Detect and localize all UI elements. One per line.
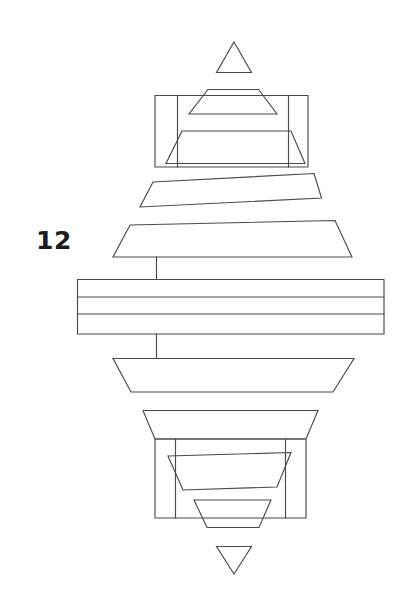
down-triangle-icon: [217, 547, 252, 575]
upper-inner-large-trapezoid: [166, 131, 305, 164]
up-triangle-icon: [217, 42, 252, 73]
bottom-inner-small-trapezoid: [194, 500, 271, 528]
technical-line-drawing: [0, 0, 409, 602]
bottom-assembly-group: [143, 411, 318, 528]
upper-assembly-group: [155, 90, 308, 168]
bottom-cap-trapezoid: [143, 411, 318, 440]
figure-canvas: 12: [0, 0, 409, 602]
wide-upper-band: [113, 221, 352, 258]
central-layer-stack: [78, 280, 385, 335]
reference-numeral-label: 12: [36, 228, 72, 253]
lower-trapezoid: [113, 359, 354, 393]
upper-inner-small-trapezoid: [189, 90, 277, 115]
slanted-band: [140, 174, 322, 208]
bottom-inner-large-trapezoid: [168, 453, 291, 491]
